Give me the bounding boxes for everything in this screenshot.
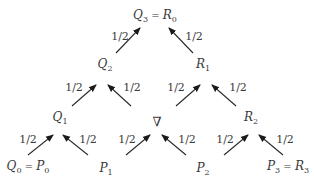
edge-weight-label: 1/2 [276, 133, 294, 146]
tree-diagram: 1/21/21/21/21/21/21/21/21/21/21/21/2 Q3 … [0, 0, 314, 181]
edge-weight-label: 1/2 [185, 30, 203, 43]
edge-weight-label: 1/2 [178, 133, 196, 146]
node-r1: R1 [195, 57, 210, 73]
node-q0p0: Q0 = P0 [7, 159, 50, 175]
node-p3r3: P3 = R3 [266, 159, 309, 175]
node-p1: P1 [98, 161, 112, 177]
edge-weight-label: 1/2 [111, 30, 129, 43]
edge-weight-label: 1/2 [216, 133, 234, 146]
node-p2: P2 [195, 161, 209, 177]
edge-weight-label: 1/2 [123, 81, 141, 94]
edge-weight-label: 1/2 [229, 81, 247, 94]
node-q2: Q2 [98, 57, 113, 73]
node-q1: Q1 [53, 110, 68, 126]
diagram-canvas: 1/21/21/21/21/21/21/21/21/21/21/21/2 Q3 … [0, 0, 314, 181]
edge-weight-label: 1/2 [65, 81, 83, 94]
node-r2: R2 [243, 110, 258, 126]
edge-weight-label: 1/2 [79, 133, 97, 146]
edge-weight-label: 1/2 [118, 133, 136, 146]
edge-weight-label: 1/2 [167, 81, 185, 94]
node-nabla-triangle-icon: ∇ [152, 114, 161, 129]
edge-weight-label: 1/2 [19, 133, 37, 146]
node-q3r0: Q3 = R0 [133, 8, 177, 24]
